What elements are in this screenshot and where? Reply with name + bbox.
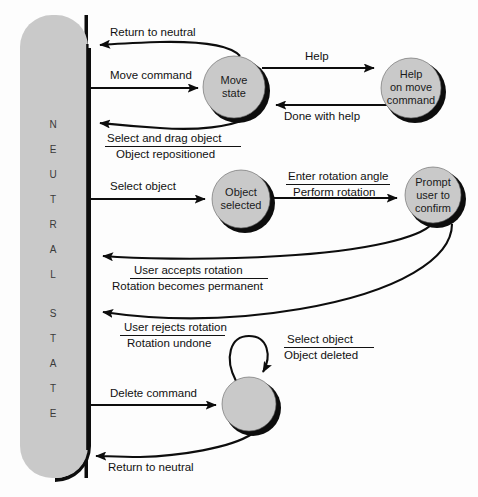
transition-user-accepts-rotation[interactable]: User accepts rotation Rotation becomes p… (103, 224, 432, 292)
transition-select-and-drag-object[interactable]: Select and drag object Object reposition… (100, 120, 243, 160)
transition-action-label: Rotation becomes permanent (112, 280, 264, 292)
transition-action-label: Rotation undone (127, 337, 211, 349)
transition-event-label: Select and drag object (107, 132, 222, 144)
transition-done-with-help[interactable]: Done with help (276, 105, 398, 122)
neutral-letter: R (49, 219, 56, 230)
transition-action-label: Object repositioned (116, 148, 215, 160)
transition-select-object-delete-self-loop[interactable]: Select object Object deleted (230, 333, 374, 381)
transition-return-to-neutral-delete[interactable]: Return to neutral (96, 434, 252, 473)
transition-move-command[interactable]: Move command (90, 69, 198, 88)
transition-action-label: Object deleted (284, 349, 358, 361)
state-object-selected[interactable]: Object selected (212, 170, 275, 233)
neutral-letter: U (49, 169, 56, 180)
state-label-line1: Prompt (415, 176, 450, 188)
neutral-letter: T (50, 194, 56, 205)
transition-event-label: User rejects rotation (124, 321, 227, 333)
neutral-letter: T (50, 333, 56, 344)
transition-delete-command[interactable]: Delete command (90, 387, 216, 405)
transition-label: Return to neutral (108, 461, 194, 473)
state-label-line1: Object (225, 186, 257, 198)
transition-label: Return to neutral (110, 26, 196, 38)
neutral-letter: S (50, 308, 57, 319)
transition-label: Help (305, 50, 329, 62)
state-delete[interactable] (222, 377, 281, 436)
transition-enter-rotation-angle[interactable]: Enter rotation angle Perform rotation (268, 170, 397, 198)
neutral-state-bar[interactable]: N E U T R A L S T A T E (20, 15, 91, 482)
transition-event-label: Enter rotation angle (288, 170, 388, 182)
neutral-letter: E (50, 408, 57, 419)
state-diagram-svg: N E U T R A L S T A T E Return to neutra… (0, 0, 478, 497)
state-label-line2: selected (221, 199, 262, 211)
neutral-letter: E (50, 144, 57, 155)
transition-event-label: Select object (287, 333, 354, 345)
neutral-letter: A (50, 244, 57, 255)
state-diagram-canvas: N E U T R A L S T A T E Return to neutra… (0, 0, 478, 497)
neutral-letter: L (50, 269, 56, 280)
transition-label: Select object (110, 180, 177, 192)
state-prompt-user-to-confirm[interactable]: Prompt user to confirm (405, 167, 466, 228)
state-label-line2: user to (416, 189, 450, 201)
transition-select-object[interactable]: Select object (90, 180, 205, 199)
state-move-state[interactable]: Move state (203, 56, 270, 123)
transition-label: Done with help (284, 110, 360, 122)
state-label-line1: Move (221, 74, 248, 86)
state-label-line2: state (222, 87, 246, 99)
transition-event-label: User accepts rotation (134, 264, 243, 276)
transition-help[interactable]: Help (262, 50, 374, 68)
transition-label: Delete command (110, 387, 197, 399)
state-label-line3: command (387, 94, 435, 106)
neutral-letter: N (49, 119, 56, 130)
state-help-on-move-command[interactable]: Help on move command (381, 58, 446, 123)
transition-label: Move command (110, 69, 192, 81)
transition-return-to-neutral-move[interactable]: Return to neutral (100, 26, 240, 56)
transition-action-label: Perform rotation (293, 186, 375, 198)
neutral-letter: A (50, 358, 57, 369)
state-label-line3: confirm (415, 202, 451, 214)
state-label-line2: on move (390, 81, 432, 93)
neutral-letter: T (50, 383, 56, 394)
state-label-line1: Help (400, 68, 423, 80)
